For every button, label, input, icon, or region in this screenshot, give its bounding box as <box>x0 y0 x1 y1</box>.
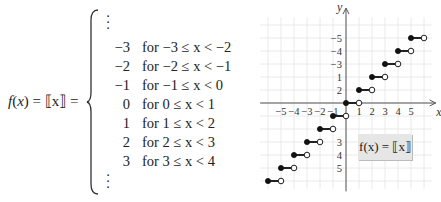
case-condition: for 0 ≤ x < 1 <box>142 96 215 113</box>
x-tick-label: 4 <box>395 106 401 117</box>
x-tick-label: −5 <box>275 106 286 117</box>
x-tick-label: 1 <box>356 106 361 117</box>
open-endpoint <box>395 61 401 67</box>
x-tick-label: 5 <box>408 106 413 117</box>
case-condition: for −3 ≤ x < −2 <box>142 39 231 56</box>
case-value: 1 <box>100 115 130 132</box>
open-endpoint <box>304 152 310 158</box>
ellipsis-bottom: ··· <box>104 173 112 191</box>
closed-endpoint <box>382 61 387 66</box>
open-endpoint <box>317 139 323 145</box>
closed-endpoint <box>408 35 413 40</box>
x-tick-label: −2 <box>314 106 325 117</box>
y-tick-label: 2 <box>337 85 342 96</box>
y-tick-label: 3 <box>337 137 342 148</box>
case-condition: for −2 ≤ x < −1 <box>142 58 231 75</box>
open-endpoint <box>278 178 284 184</box>
y-tick-label: 4 <box>337 150 343 161</box>
open-endpoint <box>343 113 349 119</box>
function-variable: x <box>17 93 24 109</box>
closed-endpoint <box>343 100 348 105</box>
closed-endpoint <box>291 152 296 157</box>
equals-floor: = ⟦x⟧ = <box>33 93 79 109</box>
closed-endpoint <box>395 48 400 53</box>
case-value: 3 <box>100 153 130 170</box>
open-endpoint <box>408 48 414 54</box>
closed-endpoint <box>265 178 270 183</box>
closed-endpoint <box>278 165 283 170</box>
case-value: 0 <box>100 96 130 113</box>
paren-close: ) <box>24 93 29 109</box>
graph-caption: f(x) = ⟦x⟧ <box>358 134 412 160</box>
closed-endpoint <box>330 113 335 118</box>
case-condition: for 2 ≤ x < 3 <box>142 134 215 151</box>
closed-endpoint <box>369 74 374 79</box>
open-endpoint <box>382 74 388 80</box>
x-axis-label: x <box>435 105 441 119</box>
open-endpoint <box>330 126 336 132</box>
y-tick-label: −4 <box>331 46 343 57</box>
open-endpoint <box>421 35 427 41</box>
closed-endpoint <box>356 87 361 92</box>
case-value: −1 <box>100 77 130 94</box>
case-value: −3 <box>100 39 130 56</box>
y-axis-label: y <box>336 0 343 14</box>
y-tick-label: 5 <box>337 163 342 174</box>
case-value: −2 <box>100 58 130 75</box>
case-condition: for 1 ≤ x < 2 <box>142 115 215 132</box>
open-endpoint <box>369 87 375 93</box>
x-tick-label: −3 <box>301 106 312 117</box>
closed-endpoint <box>304 139 309 144</box>
open-endpoint <box>356 100 362 106</box>
left-brace <box>86 8 100 196</box>
case-value: 2 <box>100 134 130 151</box>
y-tick-label: −5 <box>331 33 342 44</box>
closed-endpoint <box>317 126 322 131</box>
x-tick-label: 2 <box>369 106 374 117</box>
function-definition-lhs: f(x) = ⟦x⟧ = <box>8 92 79 110</box>
y-tick-label: −3 <box>331 59 342 70</box>
y-tick-label: 1 <box>337 72 342 83</box>
step-function-graph: xy−5−4−3−2−11234554321−3−4−5 <box>255 0 441 202</box>
x-tick-label: 3 <box>382 106 387 117</box>
x-tick-label: −4 <box>288 106 300 117</box>
ellipsis-top: ··· <box>104 14 112 32</box>
open-endpoint <box>291 165 297 171</box>
case-condition: for 3 ≤ x < 4 <box>142 153 215 170</box>
case-condition: for −1 ≤ x < 0 <box>142 77 223 94</box>
